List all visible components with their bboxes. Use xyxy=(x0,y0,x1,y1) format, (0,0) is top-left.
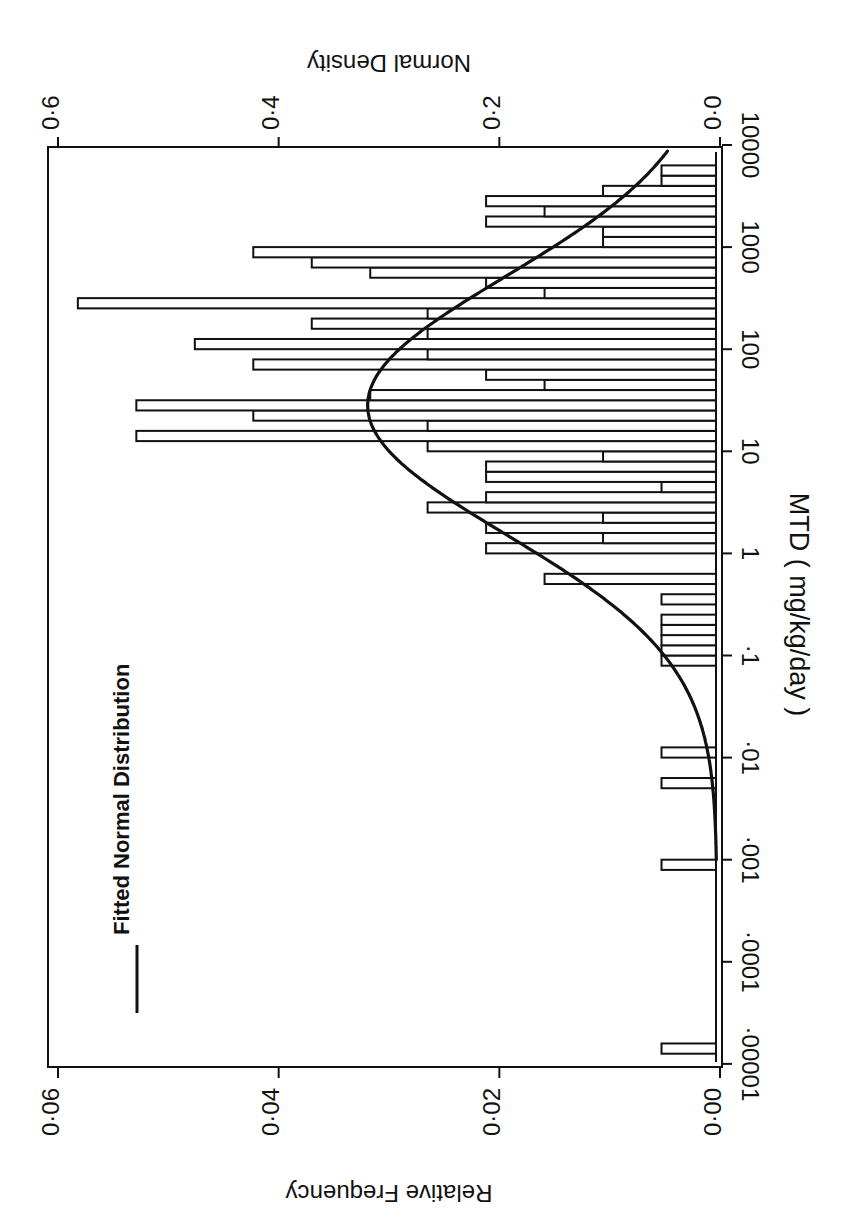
histogram-bar xyxy=(662,165,716,175)
x-tick-label: ·01 xyxy=(737,740,764,775)
x-tick-label: ·0001 xyxy=(737,931,764,992)
x-tick-label: 100 xyxy=(737,329,764,369)
y-tick-label: 0·06 xyxy=(37,1088,64,1136)
chart: ·00001·0001·001·01·1110100100010000 0·00… xyxy=(0,0,859,1222)
histogram-bar xyxy=(662,482,716,492)
x-tick-label: ·00001 xyxy=(737,1027,764,1102)
y-axis-ticks-right: 0·00·20·40·6 xyxy=(37,95,726,147)
histogram-bar xyxy=(428,349,716,359)
histogram-bar xyxy=(253,247,716,257)
histogram-bar xyxy=(603,186,716,196)
histogram-bar xyxy=(545,206,716,216)
histogram-bar xyxy=(662,594,716,604)
histogram-bar xyxy=(662,778,716,788)
histogram-bar xyxy=(428,329,716,339)
histogram-bar xyxy=(662,645,716,655)
histogram-bar xyxy=(253,410,716,420)
histogram-bar xyxy=(662,176,716,186)
x-tick-label: 1 xyxy=(737,547,764,560)
histogram-bar xyxy=(428,502,716,512)
y-tick-label: 0·02 xyxy=(478,1088,505,1136)
histogram-bar xyxy=(136,431,716,441)
y-axis-label-left: Relative Frequency xyxy=(286,1180,493,1207)
histogram-bar xyxy=(545,380,716,390)
legend-label: Fitted Normal Distribution xyxy=(109,664,134,935)
histogram-bar xyxy=(603,533,716,543)
histogram-bar xyxy=(662,615,716,625)
histogram-bar xyxy=(253,359,716,369)
x-axis-ticks: ·00001·0001·001·01·1110100100010000 xyxy=(722,112,764,1102)
x-axis-label: MTD ( mg/kg/day ) xyxy=(784,493,814,717)
histogram-bar xyxy=(486,278,716,288)
histogram-bar xyxy=(78,298,716,308)
histogram-bar xyxy=(486,216,716,226)
y-tick-label: 0·04 xyxy=(257,1088,284,1136)
histogram-bar xyxy=(312,257,716,267)
histogram-bar xyxy=(603,513,716,523)
histogram-bar xyxy=(662,1043,716,1053)
histogram-bar xyxy=(136,400,716,410)
x-tick-label: ·001 xyxy=(737,836,764,884)
histogram-bar xyxy=(486,472,716,482)
histogram-bar xyxy=(428,308,716,318)
histogram-bar xyxy=(428,421,716,431)
histogram-bar xyxy=(195,339,716,349)
histogram-bar xyxy=(603,451,716,461)
rotated-chart-group: ·00001·0001·001·01·1110100100010000 0·00… xyxy=(37,50,815,1207)
y-right-tick-label: 0·6 xyxy=(37,95,64,130)
histogram-bar xyxy=(486,370,716,380)
histogram-bar xyxy=(370,390,716,400)
histogram-bar xyxy=(312,319,716,329)
x-tick-label: 10 xyxy=(737,438,764,465)
histogram-bar xyxy=(603,227,716,237)
y-right-tick-label: 0·0 xyxy=(699,95,726,130)
histogram-bar xyxy=(603,237,716,247)
x-tick-label: 10000 xyxy=(737,112,764,179)
histogram-bar xyxy=(428,441,716,451)
histogram-bar xyxy=(662,860,716,870)
y-tick-label: 0·00 xyxy=(699,1088,726,1136)
y-axis-label-right: Normal Density xyxy=(307,50,471,77)
y-right-tick-label: 0·2 xyxy=(478,95,505,130)
histogram-bar xyxy=(545,288,716,298)
legend: Fitted Normal Distribution xyxy=(109,664,137,1013)
histogram-bar xyxy=(486,492,716,502)
histogram-bar xyxy=(662,625,716,635)
y-right-tick-label: 0·4 xyxy=(257,95,284,130)
x-tick-label: ·1 xyxy=(737,645,764,666)
histogram-bar xyxy=(370,268,716,278)
histogram-bar xyxy=(486,523,716,533)
histogram-bar xyxy=(486,462,716,472)
y-axis-ticks-left: 0·000·020·040·06 xyxy=(37,1067,726,1136)
x-tick-label: 1000 xyxy=(737,220,764,273)
histogram-bar xyxy=(662,635,716,645)
histogram-bar xyxy=(486,196,716,206)
